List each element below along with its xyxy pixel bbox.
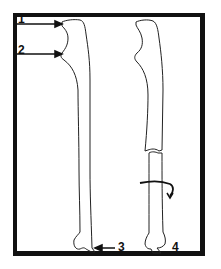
rotation-arrow-icon	[140, 182, 173, 198]
bone-diagram	[0, 0, 221, 269]
label-arrows	[17, 21, 115, 251]
fractured-ulna-lower	[145, 152, 165, 253]
label-4: 4	[172, 241, 179, 253]
intact-ulna	[61, 20, 95, 253]
label-3: 3	[118, 241, 125, 253]
label-1: 1	[18, 13, 25, 25]
fractured-ulna-upper	[135, 20, 163, 151]
label-2: 2	[18, 44, 25, 56]
